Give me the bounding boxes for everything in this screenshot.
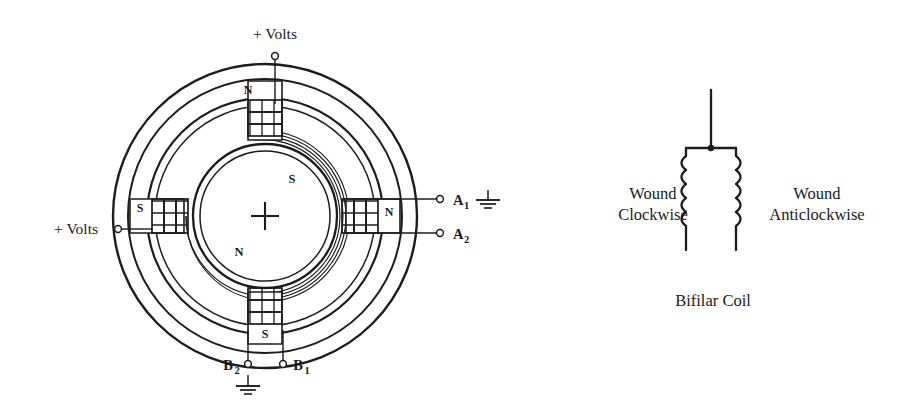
terminal-label-A2-sub: 2 — [464, 234, 469, 245]
terminal-label-B1: B 1 — [293, 357, 309, 376]
bifilar-coil-symbol: Wound Clockwise Wound Anticlockwise Bifi… — [618, 90, 864, 310]
ground-symbol-A1-icon — [476, 190, 500, 208]
bifilar-right-winding — [736, 148, 741, 250]
terminal-label-B2-sub: 2 — [234, 365, 239, 376]
terminal-label-B2-base: B — [223, 357, 233, 373]
terminal-dot-B2[interactable] — [245, 361, 252, 368]
rotor-center-crosshair-icon — [251, 202, 279, 230]
pole-top: N — [244, 81, 282, 140]
terminal-label-A2-base: A — [453, 226, 464, 242]
pole-label-right: N — [385, 205, 394, 219]
terminal-label-B1-sub: 1 — [304, 365, 309, 376]
bifilar-junction-dot — [708, 145, 714, 151]
terminal-label-A1-sub: 1 — [464, 200, 469, 211]
bifilar-left-winding — [682, 148, 687, 250]
schematic-svg: S N — [0, 0, 915, 406]
supply-label-left: + Volts — [54, 220, 98, 237]
terminal-label-A2: A 2 — [453, 226, 469, 245]
terminal-label-B2: B 2 — [223, 357, 239, 376]
supply-label-top: + Volts — [253, 25, 297, 42]
terminal-dot-A2[interactable] — [437, 230, 444, 237]
wound-anticlockwise-line1: Wound — [793, 184, 841, 203]
wound-anticlockwise-line2: Anticlockwise — [769, 205, 864, 224]
rotor-label-bottom: N — [234, 245, 243, 259]
pole-label-bottom: S — [262, 327, 269, 341]
ground-symbol-B2-icon — [236, 375, 260, 394]
pole-label-left: S — [137, 201, 144, 215]
terminal-dot-supply-left[interactable] — [115, 226, 122, 233]
pole-left: S — [130, 199, 188, 233]
rotor-label-top: S — [289, 172, 296, 186]
terminal-dot-A1[interactable] — [437, 196, 444, 203]
pole-bottom: S — [248, 288, 282, 344]
pole-label-top: N — [244, 83, 253, 97]
terminal-dot-supply-top[interactable] — [272, 53, 279, 60]
terminal-dot-B1[interactable] — [280, 361, 287, 368]
terminal-label-A1-base: A — [453, 192, 464, 208]
terminal-label-B1-base: B — [293, 357, 303, 373]
wound-clockwise-line2: Clockwise — [618, 205, 688, 224]
terminal-label-A1: A 1 — [453, 192, 469, 211]
figure-canvas: S N — [0, 0, 915, 406]
wound-clockwise-line1: Wound — [629, 184, 677, 203]
bifilar-caption: Bifilar Coil — [675, 291, 751, 310]
pole-right: N — [342, 199, 400, 233]
motor-assembly: S N — [54, 25, 500, 394]
